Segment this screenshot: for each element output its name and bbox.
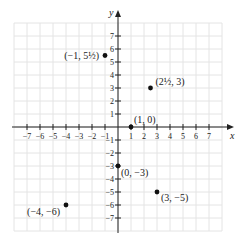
data-point (116, 164, 121, 169)
point-label: (1, 0) (134, 114, 156, 126)
y-tick-label: 5 (110, 58, 114, 67)
y-tick-label: −7 (105, 214, 114, 223)
x-tick-label: 2 (142, 132, 146, 141)
point-label: (2½, 3) (156, 76, 185, 88)
y-axis-label: y (108, 7, 114, 18)
x-tick-label: 1 (129, 132, 133, 141)
x-tick-label: 6 (194, 132, 198, 141)
point-label: (0, −3) (121, 167, 148, 179)
x-tick-label: 7 (207, 132, 211, 141)
y-tick-label: 2 (110, 97, 114, 106)
coordinate-plane: xy−7−6−5−4−3−2−11234567−7−6−5−4−3−2−1123… (0, 0, 244, 246)
y-tick-label: 4 (110, 71, 114, 80)
y-tick-label: −1 (105, 136, 114, 145)
y-tick-label: 7 (110, 32, 114, 41)
y-tick-label: 6 (110, 45, 114, 54)
y-tick-label: −3 (105, 162, 114, 171)
x-tick-label: 5 (181, 132, 185, 141)
data-point (148, 86, 153, 91)
y-axis-arrow-icon (115, 10, 121, 17)
y-tick-label: −4 (105, 175, 114, 184)
data-point (64, 203, 69, 208)
y-tick-label: −6 (105, 201, 114, 210)
x-tick-label: −5 (49, 132, 58, 141)
y-tick-label: −2 (105, 149, 114, 158)
x-tick-label: −3 (75, 132, 84, 141)
x-axis-label: x (229, 130, 235, 141)
point-label: (3, −5) (161, 192, 188, 204)
point-label: (−1, 5½) (64, 50, 99, 62)
data-point (155, 190, 160, 195)
x-tick-label: −4 (62, 132, 71, 141)
y-tick-label: −5 (105, 188, 114, 197)
x-tick-label: −2 (88, 132, 97, 141)
point-label: (−4, −6) (27, 206, 60, 218)
x-tick-label: 3 (155, 132, 159, 141)
x-tick-label: −6 (36, 132, 45, 141)
data-point (103, 53, 108, 58)
y-tick-label: 1 (110, 110, 114, 119)
x-tick-label: −7 (23, 132, 32, 141)
x-tick-label: 4 (168, 132, 172, 141)
data-point (129, 125, 134, 130)
y-tick-label: 3 (110, 84, 114, 93)
